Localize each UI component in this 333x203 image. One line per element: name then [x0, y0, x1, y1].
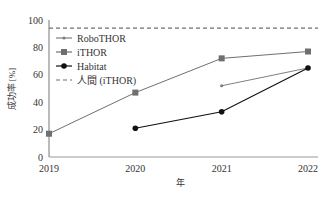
- legend-label: Habitat: [77, 61, 107, 72]
- x-tick-label: 2020: [125, 163, 145, 174]
- y-tick-label: 40: [33, 97, 43, 108]
- series-line: [135, 68, 308, 128]
- legend-label: 人間 (iTHOR): [77, 75, 136, 87]
- legend-item: Habitat: [56, 61, 107, 72]
- series-robothor: [220, 66, 310, 87]
- legend-item: RoboTHOR: [56, 33, 126, 44]
- x-tick-label: 2022: [298, 163, 318, 174]
- y-axis-label: 成功率 [%]: [6, 68, 17, 111]
- legend-circle-marker-icon: [61, 63, 67, 69]
- circle-marker: [305, 65, 311, 71]
- circle-marker: [133, 125, 139, 131]
- y-tick-label: 60: [33, 69, 43, 80]
- x-tick-label: 2021: [212, 163, 232, 174]
- legend-label: RoboTHOR: [77, 33, 126, 44]
- success-rate-line-chart: 020406080100 2019202020212022 成功率 [%] 年 …: [0, 0, 333, 203]
- legend-item: 人間 (iTHOR): [56, 75, 136, 87]
- x-tick-label: 2019: [39, 163, 59, 174]
- legend: RoboTHORiTHORHabitat人間 (iTHOR): [56, 33, 136, 87]
- y-tick-label: 0: [38, 152, 43, 163]
- legend-item: iTHOR: [56, 47, 107, 58]
- square-marker: [46, 131, 52, 137]
- legend-dot-marker-icon: [62, 36, 65, 39]
- x-axis-label: 年: [176, 177, 185, 188]
- y-tick-label: 100: [28, 15, 43, 26]
- legend-label: iTHOR: [77, 47, 107, 58]
- dot-marker: [220, 84, 223, 87]
- series-habitat: [133, 65, 311, 131]
- x-tick-labels: 2019202020212022: [39, 163, 318, 174]
- y-tick-labels: 020406080100: [28, 15, 43, 163]
- square-marker: [132, 90, 138, 96]
- y-tick-label: 80: [33, 42, 43, 53]
- legend-square-marker-icon: [61, 49, 67, 55]
- y-tick-label: 20: [33, 124, 43, 135]
- square-marker: [305, 49, 311, 55]
- square-marker: [219, 55, 225, 61]
- series-line: [222, 68, 308, 86]
- circle-marker: [219, 109, 225, 115]
